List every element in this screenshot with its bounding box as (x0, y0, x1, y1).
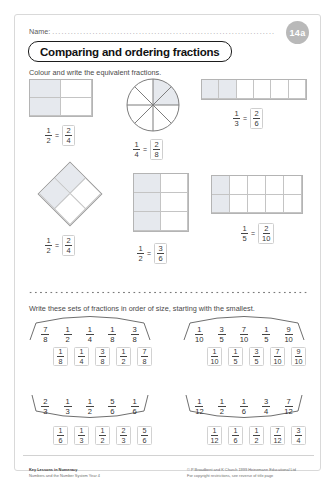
fraction-answer[interactable]: 3 6 (154, 243, 167, 264)
grid-diamond-2x2[interactable] (37, 161, 102, 226)
equation-half-diamond: 1 2 = 2 4 (45, 235, 75, 256)
instruction-section-2: Write these sets of fractions in order o… (29, 304, 255, 313)
fraction-answer[interactable]: 2 4 (62, 125, 75, 146)
answer-box[interactable]: 78 (137, 347, 152, 366)
answer-box[interactable]: 35 (249, 347, 264, 366)
equation-half-2x3: 1 2 = 3 6 (137, 243, 167, 264)
fraction-item: 15 (262, 326, 270, 344)
dotted-separator (28, 291, 309, 294)
answer-box[interactable]: 112 (207, 426, 222, 445)
given-fractions: 23 13 12 56 16 (27, 394, 153, 425)
answer-box[interactable]: 16 (228, 426, 243, 445)
fraction-banner-set-1[interactable]: 78 12 14 18 38 (27, 315, 153, 340)
fraction-banner-set-2[interactable]: 110 35 710 15 910 (181, 315, 307, 340)
answer-box[interactable]: 12 (95, 426, 110, 445)
worksheet-page: Name: ..................................… (0, 0, 335, 499)
page-title: Comparing and ordering fractions (28, 41, 232, 62)
answer-box[interactable]: 12 (116, 347, 131, 366)
name-write-line[interactable]: ........................................… (52, 27, 274, 36)
answer-box[interactable]: 13 (74, 426, 89, 445)
answer-box[interactable]: 16 (53, 426, 68, 445)
name-label: Name: (29, 27, 50, 36)
equals-sign: = (143, 146, 147, 153)
answer-box[interactable]: 110 (207, 347, 222, 366)
answer-row-set-1[interactable]: 18 14 38 12 78 (53, 347, 152, 366)
fraction-answer[interactable]: 2 8 (150, 139, 163, 160)
answer-box[interactable]: 12 (249, 426, 264, 445)
equation-quarter-circle: 1 4 = 2 8 (133, 139, 163, 160)
fraction-item: 12 (218, 398, 226, 416)
fraction-item: 56 (108, 398, 116, 416)
equation-third-strip: 1 3 = 2 6 (233, 108, 263, 129)
fraction-item: 112 (195, 398, 203, 416)
answer-box[interactable]: 23 (116, 426, 131, 445)
equals-sign: = (147, 250, 151, 257)
given-fractions: 78 12 14 18 38 (27, 315, 153, 347)
answer-box[interactable]: 34 (291, 426, 306, 445)
fraction-item: 16 (131, 398, 139, 416)
answer-box[interactable]: 15 (228, 347, 243, 366)
page-number-badge: 14a (286, 21, 309, 44)
fraction-item: 34 (262, 398, 270, 416)
fraction-answer[interactable]: 2 6 (250, 108, 263, 129)
equals-sign: = (243, 115, 247, 122)
fraction-item: 16 (240, 398, 248, 416)
answer-box[interactable]: 710 (270, 347, 285, 366)
footer-copyright: © P Broadbent and K Church 1999 Heineman… (187, 467, 296, 479)
equals-sign: = (251, 230, 255, 237)
fraction-item: 910 (284, 326, 292, 344)
footer-series-title: Key Lessons in Numeracy (29, 467, 77, 472)
fraction-left: 1 2 (45, 127, 52, 145)
fraction-left: 1 4 (133, 141, 140, 159)
grid-2x3[interactable] (133, 173, 189, 232)
fraction-banner-set-4[interactable]: 112 12 16 34 712 (181, 394, 307, 419)
given-fractions: 112 12 16 34 712 (181, 394, 307, 425)
answer-row-set-4[interactable]: 112 16 12 712 34 (207, 426, 306, 445)
equals-sign: = (55, 132, 59, 139)
answer-box[interactable]: 18 (53, 347, 68, 366)
fraction-item: 23 (41, 398, 49, 416)
fraction-item: 110 (195, 326, 203, 344)
fraction-item: 13 (64, 398, 72, 416)
fraction-item: 78 (41, 326, 49, 344)
grid-5x2[interactable] (211, 175, 303, 214)
answer-row-set-2[interactable]: 110 15 35 710 910 (207, 347, 306, 366)
grid-2x2[interactable] (29, 79, 93, 117)
shape-quarter-circle[interactable] (125, 77, 181, 133)
fraction-left: 1 2 (137, 245, 144, 263)
copyright-line: © P Broadbent and K Church 1999 Heineman… (187, 467, 296, 473)
answer-box[interactable]: 56 (137, 426, 152, 445)
fraction-item: 14 (86, 326, 94, 344)
footer-divider (23, 455, 314, 456)
name-field-row: Name: ..................................… (29, 27, 274, 36)
equals-sign: = (55, 242, 59, 249)
answer-box[interactable]: 38 (95, 347, 110, 366)
fraction-answer[interactable]: 2 10 (258, 223, 274, 244)
fraction-banner-set-3[interactable]: 23 13 12 56 16 (27, 394, 153, 419)
restrictions-line: For copyright restrictions, see reverse … (187, 473, 296, 479)
fraction-left: 1 2 (45, 237, 52, 255)
fraction-item: 12 (86, 398, 94, 416)
fraction-item: 35 (218, 326, 226, 344)
fraction-item: 712 (284, 398, 292, 416)
instruction-section-1: Colour and write the equivalent fraction… (29, 68, 161, 77)
worksheet-sheet: Name: ..................................… (14, 14, 321, 471)
answer-box[interactable]: 14 (74, 347, 89, 366)
fraction-item: 38 (131, 326, 139, 344)
fraction-item: 710 (240, 326, 248, 344)
footer-series: Key Lessons in Numeracy Numbers and the … (29, 467, 100, 479)
fraction-answer[interactable]: 2 4 (62, 235, 75, 256)
fraction-item: 18 (108, 326, 116, 344)
equation-half-2x2: 1 2 = 2 4 (45, 125, 75, 146)
fraction-left: 1 5 (241, 225, 248, 243)
answer-box[interactable]: 910 (291, 347, 306, 366)
circle-eighths-icon[interactable] (125, 77, 181, 133)
answer-box[interactable]: 712 (270, 426, 285, 445)
given-fractions: 110 35 710 15 910 (181, 315, 307, 347)
fraction-item: 12 (64, 326, 72, 344)
equation-fifth-5x2: 1 5 = 2 10 (241, 223, 274, 244)
grid-1x6[interactable] (201, 79, 307, 100)
footer-series-subtitle: Numbers and the Number System Year 4 (29, 473, 100, 479)
answer-row-set-3[interactable]: 16 13 12 23 56 (53, 426, 152, 445)
fraction-left: 1 3 (233, 110, 240, 128)
